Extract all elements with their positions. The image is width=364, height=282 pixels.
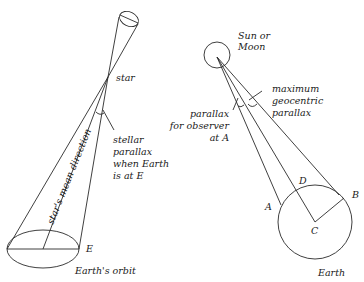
max-parallax-label-3: parallax xyxy=(272,107,312,118)
lower-cone-right xyxy=(79,77,108,249)
max-parallax-label-1: maximum xyxy=(272,83,319,94)
earth-orbit-label: Earth's orbit xyxy=(74,265,136,276)
sun-moon-circle xyxy=(204,42,230,68)
lower-cone-left xyxy=(7,77,108,249)
parallax-diagram: star stellar parallax when Earth is at E… xyxy=(0,0,364,282)
line-to-a xyxy=(217,57,281,205)
line-to-c xyxy=(217,57,315,222)
observer-parallax-label-2: for observer xyxy=(169,120,231,131)
max-parallax-arc xyxy=(248,104,257,107)
stellar-parallax-pointer xyxy=(103,110,114,130)
stellar-parallax-arc xyxy=(96,112,104,114)
sun-moon-label-2: Moon xyxy=(237,41,265,52)
stellar-parallax-figure: star stellar parallax when Earth is at E… xyxy=(7,8,169,276)
radius-cb xyxy=(315,198,344,222)
max-parallax-label-2: geocentric xyxy=(272,95,324,106)
point-e-label: E xyxy=(85,243,93,254)
point-b-label: B xyxy=(351,189,359,200)
observer-parallax-label-3: at A xyxy=(210,132,230,143)
line-to-b xyxy=(217,57,339,195)
earth-label: Earth xyxy=(317,267,345,278)
geocentric-parallax-figure: Sun or Moon maximum geocentric parallax … xyxy=(169,30,359,278)
apparent-path-diameter xyxy=(120,15,138,23)
stellar-parallax-label-1: stellar xyxy=(113,134,145,145)
stellar-parallax-label-4: is at E xyxy=(113,170,143,181)
star-label: star xyxy=(116,72,136,83)
observer-parallax-label-1: parallax xyxy=(190,108,230,119)
stellar-parallax-label-2: parallax xyxy=(113,146,153,157)
sun-moon-label-1: Sun or xyxy=(238,30,271,41)
point-a-label: A xyxy=(264,201,272,212)
observer-parallax-arc xyxy=(238,105,244,107)
point-d-label: D xyxy=(298,175,307,186)
point-c-label: C xyxy=(311,225,319,236)
stellar-parallax-label-3: when Earth xyxy=(113,158,169,169)
